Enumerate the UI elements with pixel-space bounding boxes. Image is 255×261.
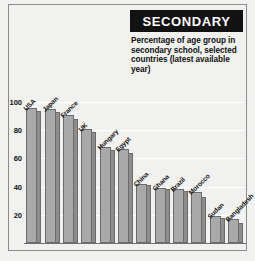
x-axis-line xyxy=(24,243,246,244)
bar-group xyxy=(81,88,96,243)
bar xyxy=(146,185,151,243)
chart-subtitle: Percentage of age group in secondary sch… xyxy=(131,36,249,74)
bar-group xyxy=(118,88,133,243)
panel-border-bottom xyxy=(8,250,247,251)
y-axis-tick-label: 60 xyxy=(14,154,22,163)
bar xyxy=(91,132,96,243)
y-axis-tick-label: 40 xyxy=(14,182,22,191)
bar-group xyxy=(26,88,41,243)
bar-group-container xyxy=(25,88,245,243)
y-axis-tick-label: 80 xyxy=(14,126,22,135)
bar-group xyxy=(191,88,206,243)
bar xyxy=(110,150,115,243)
bar-group xyxy=(155,88,170,243)
bar xyxy=(201,197,206,244)
chart-title-banner: SECONDARY xyxy=(130,10,243,32)
bar-group xyxy=(100,88,115,243)
bar-group xyxy=(173,88,188,243)
chart-panel: SECONDARY Percentage of age group in sec… xyxy=(0,0,255,261)
bar-group xyxy=(136,88,151,243)
panel-border-top xyxy=(8,4,247,5)
bar xyxy=(183,191,188,243)
page-title: SECONDARY xyxy=(143,15,231,28)
y-axis-tick-label: 100 xyxy=(9,98,22,107)
bar xyxy=(128,153,133,243)
bar xyxy=(238,223,243,243)
bar xyxy=(55,112,60,243)
plot-area: 20406080100 USAJapanFranceUKHungaryEgypt… xyxy=(25,88,245,243)
bar xyxy=(165,189,170,243)
bar xyxy=(73,119,78,243)
bar-group xyxy=(210,88,225,243)
bar xyxy=(36,111,41,243)
bar xyxy=(220,218,225,243)
panel-border-left xyxy=(8,4,9,251)
y-axis-tick-label: 20 xyxy=(14,210,22,219)
